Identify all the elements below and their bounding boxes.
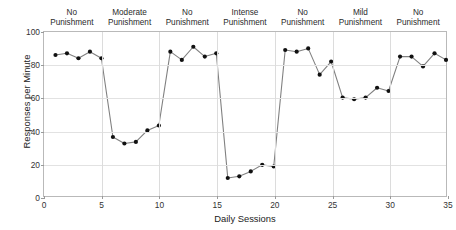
data-point: [53, 53, 57, 57]
data-point: [249, 169, 253, 173]
y-axis-tick-label: 80: [31, 60, 40, 70]
data-point: [283, 48, 287, 52]
data-point: [203, 55, 207, 59]
y-axis-tick-mark: [41, 65, 44, 66]
plot-area: 02040608010005101520253035: [43, 31, 447, 197]
data-point: [134, 140, 138, 144]
y-axis-tick-mark: [41, 132, 44, 133]
x-axis-title: Daily Sessions: [43, 213, 447, 224]
data-point: [88, 50, 92, 54]
data-point: [237, 174, 241, 178]
y-axis-tick-label: 0: [35, 193, 40, 203]
y-axis-tick-label: 20: [31, 160, 40, 170]
x-axis-tick-label: 10: [155, 200, 164, 210]
data-point: [168, 50, 172, 54]
x-axis-tick-mark: [390, 196, 391, 199]
y-axis-tick-label: 40: [31, 127, 40, 137]
y-axis-tick-mark: [41, 98, 44, 99]
x-axis-tick-label: 25: [328, 200, 337, 210]
data-point: [226, 176, 230, 180]
x-axis-tick-mark: [44, 196, 45, 199]
gridline-horizontal: [44, 132, 446, 133]
data-point: [295, 50, 299, 54]
phase-label-4: Intense Punishment: [216, 8, 274, 29]
y-axis-tick-mark: [41, 32, 44, 33]
data-point: [180, 58, 184, 62]
phase-divider-line: [217, 32, 218, 196]
phase-label-5: No Punishment: [274, 8, 332, 29]
phase-label-1: No Punishment: [43, 8, 101, 29]
x-axis-tick-mark: [275, 196, 276, 199]
phase-label-7: No Punishment: [389, 8, 447, 29]
phase-label-row: No PunishmentModerate PunishmentNo Punis…: [43, 8, 447, 30]
chart-container: Responses per Minute Daily Sessions No P…: [0, 0, 456, 230]
series-polyline: [55, 47, 446, 178]
data-point: [444, 58, 448, 62]
x-axis-tick-mark: [159, 196, 160, 199]
y-axis-tick-mark: [41, 165, 44, 166]
phase-label-3: No Punishment: [158, 8, 216, 29]
x-axis-tick-mark: [217, 196, 218, 199]
data-point: [318, 73, 322, 77]
phase-label-6: Mild Punishment: [332, 8, 390, 29]
data-point: [191, 45, 195, 49]
data-series-line: [44, 32, 446, 196]
x-axis-tick-label: 15: [212, 200, 221, 210]
y-axis-tick-label: 60: [31, 93, 40, 103]
x-axis-tick-label: 0: [42, 200, 47, 210]
data-point: [122, 141, 126, 145]
data-point: [432, 51, 436, 55]
data-point: [65, 51, 69, 55]
phase-divider-line: [275, 32, 276, 196]
x-axis-tick-label: 35: [443, 200, 452, 210]
phase-divider-line: [390, 32, 391, 196]
data-point: [306, 46, 310, 50]
data-point: [76, 56, 80, 60]
phase-divider-line: [159, 32, 160, 196]
data-point: [409, 55, 413, 59]
x-axis-tick-mark: [102, 196, 103, 199]
phase-divider-line: [333, 32, 334, 196]
gridline-horizontal: [44, 98, 446, 99]
data-point: [111, 135, 115, 139]
x-axis-tick-label: 5: [99, 200, 104, 210]
y-axis-tick-label: 100: [26, 27, 40, 37]
x-axis-tick-mark: [448, 196, 449, 199]
gridline-horizontal: [44, 165, 446, 166]
x-axis-tick-mark: [333, 196, 334, 199]
data-point: [398, 55, 402, 59]
phase-divider-line: [102, 32, 103, 196]
data-point: [375, 86, 379, 90]
x-axis-tick-label: 20: [270, 200, 279, 210]
x-axis-tick-label: 30: [386, 200, 395, 210]
phase-label-2: Moderate Punishment: [101, 8, 159, 29]
gridline-horizontal: [44, 65, 446, 66]
